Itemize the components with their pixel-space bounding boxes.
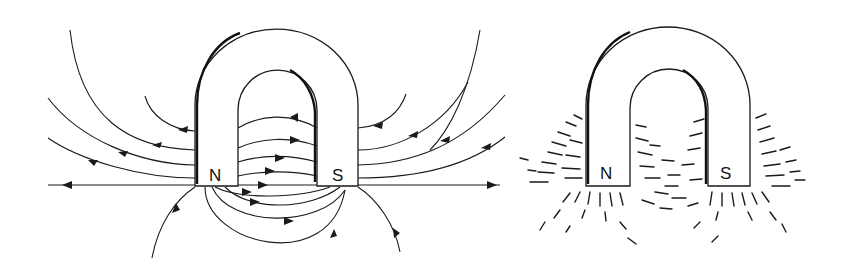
field-line [48,98,195,165]
field-line [238,139,317,148]
arrow-icon [290,113,298,122]
field-line [238,117,317,128]
arrow-icon [393,228,400,238]
arrow-icon [275,154,285,162]
left-external-field-lines [48,30,195,189]
arrow-icon [62,181,72,189]
field-line [145,96,195,131]
field-line [70,30,195,150]
field-line [358,137,505,178]
arrow-icon [330,229,337,238]
arrow-icon [290,136,300,144]
arrow-icon [373,122,383,129]
iron-filings-panel: N S [520,27,805,244]
figure-canvas: N S N S [0,0,843,277]
field-line [48,138,195,178]
field-line [358,95,505,165]
north-pole-label: N [209,166,221,185]
arrow-icon [88,160,98,166]
arrow-icon [250,198,260,206]
arrow-icon [178,126,188,133]
field-line [358,82,468,150]
arrow-icon [408,131,418,138]
north-pole-label: N [600,164,612,183]
field-line [430,30,480,150]
arrow-icon [152,142,162,148]
arrow-icon [487,181,497,189]
arrow-icon [118,151,128,157]
field-line [215,187,330,196]
field-line [358,187,400,252]
arrow-icon [481,143,491,150]
lower-field-lines [152,187,400,258]
field-line [152,187,195,258]
right-external-field-lines [358,30,505,189]
horseshoe-magnet-right: N S [586,27,750,186]
south-pole-label: S [332,166,343,185]
field-lines-panel: N S [48,29,505,258]
iron-filings [520,114,805,244]
arrow-icon [265,167,275,175]
arrow-icon [284,217,294,225]
south-pole-label: S [720,164,731,183]
horseshoe-magnet-left: N S [195,29,358,186]
field-line [238,172,317,176]
field-line [212,187,345,218]
arrow-icon [258,181,268,189]
